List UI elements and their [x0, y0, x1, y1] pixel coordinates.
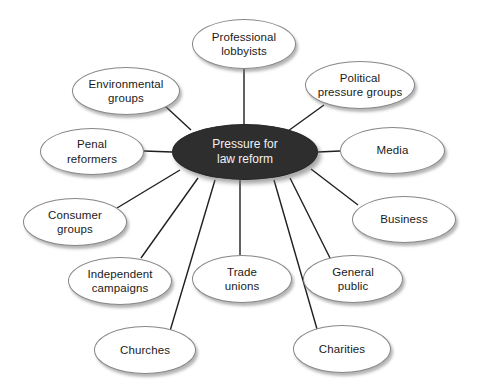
node-environmental-groups[interactable]: Environmentalgroups: [72, 67, 180, 115]
node-penal-reformers[interactable]: Penalreformers: [40, 128, 144, 175]
node-independent-campaigns-label-line2: campaigns: [92, 282, 149, 294]
edge-center-to-consumer-groups: [117, 170, 180, 208]
node-penal-reformers-label-line2: reformers: [67, 153, 117, 165]
node-professional-lobbyists[interactable]: Professionallobbyists: [192, 19, 296, 69]
node-consumer-groups-label-line1: Consumer: [48, 209, 102, 221]
node-business[interactable]: Business: [352, 196, 456, 243]
node-professional-lobbyists-label: Professionallobbyists: [206, 30, 282, 58]
node-political-pressure-groups-label: Politicalpressure groups: [312, 71, 409, 99]
edge-center-to-general-public: [290, 178, 330, 258]
node-trade-unions-label: Tradeunions: [219, 265, 266, 293]
node-general-public[interactable]: Generalpublic: [303, 255, 403, 303]
edge-center-to-environmental-groups: [165, 106, 191, 130]
node-penal-reformers-label-line1: Penal: [77, 138, 107, 150]
node-consumer-groups[interactable]: Consumergroups: [23, 198, 127, 246]
node-independent-campaigns[interactable]: Independentcampaigns: [68, 257, 172, 305]
node-business-label: Business: [374, 212, 433, 226]
node-penal-reformers-label: Penalreformers: [61, 137, 123, 165]
center-node-label: Pressure for law reform: [212, 137, 277, 167]
node-charities[interactable]: Charities: [293, 325, 391, 373]
node-charities-label: Charities: [313, 342, 371, 356]
center-node-pressure-for-law-reform[interactable]: Pressure for law reform: [172, 124, 318, 180]
node-environmental-groups-label-line2: groups: [108, 92, 144, 104]
edge-center-to-political-pressure-groups: [288, 105, 324, 131]
node-consumer-groups-label: Consumergroups: [42, 208, 108, 236]
node-churches-label-line1: Churches: [120, 344, 170, 356]
law-reform-pressure-diagram: Pressure for law reform Professionallobb…: [0, 0, 487, 391]
node-professional-lobbyists-label-line1: Professional: [212, 31, 276, 43]
node-business-label-line1: Business: [380, 213, 427, 225]
node-media-label: Media: [371, 143, 415, 157]
node-environmental-groups-label-line1: Environmental: [89, 78, 164, 90]
node-trade-unions-label-line2: unions: [225, 280, 260, 292]
node-churches-label: Churches: [114, 343, 176, 357]
edge-center-to-independent-campaigns: [141, 178, 198, 258]
edge-center-to-charities: [274, 180, 317, 329]
node-political-pressure-groups-label-line1: Political: [340, 72, 381, 84]
node-independent-campaigns-label: Independentcampaigns: [81, 267, 158, 295]
node-general-public-label-line2: public: [338, 280, 369, 292]
node-trade-unions-label-line1: Trade: [227, 266, 257, 278]
node-political-pressure-groups-label-line2: pressure groups: [318, 86, 403, 98]
node-charities-label-line1: Charities: [319, 343, 365, 355]
node-consumer-groups-label-line2: groups: [57, 223, 93, 235]
node-media[interactable]: Media: [340, 127, 445, 174]
node-general-public-label: Generalpublic: [326, 265, 380, 293]
node-independent-campaigns-label-line1: Independent: [87, 268, 152, 280]
center-node-label-line1: Pressure for: [212, 137, 277, 151]
node-environmental-groups-label: Environmentalgroups: [83, 77, 170, 105]
center-node-label-line2: law reform: [217, 152, 273, 166]
node-trade-unions[interactable]: Tradeunions: [192, 255, 292, 303]
edge-center-to-business: [311, 169, 358, 205]
edge-center-to-penal-reformers: [144, 151, 172, 152]
node-general-public-label-line1: General: [332, 266, 374, 278]
node-professional-lobbyists-label-line2: lobbyists: [221, 45, 267, 57]
node-media-label-line1: Media: [377, 144, 409, 156]
edge-center-to-media: [318, 151, 340, 152]
node-churches[interactable]: Churches: [94, 326, 196, 374]
node-political-pressure-groups[interactable]: Politicalpressure groups: [305, 61, 415, 109]
edge-center-to-churches: [170, 180, 215, 331]
